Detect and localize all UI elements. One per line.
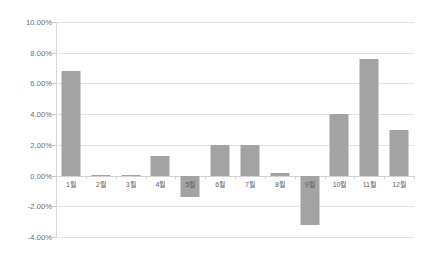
gridline	[56, 237, 414, 238]
x-axis-tick-label: 10월	[325, 179, 355, 189]
bar[interactable]	[61, 71, 80, 175]
y-axis-tick-label: -4.00%	[0, 233, 52, 242]
bar[interactable]	[270, 173, 289, 175]
y-axis-tick-label: 4.00%	[0, 110, 52, 119]
bar-slot	[354, 22, 384, 237]
bar-chart: 10.00%8.00%6.00%4.00%2.00%0.00%-2.00%-4.…	[0, 0, 430, 260]
x-axis-tick-label: 9월	[295, 179, 325, 189]
y-axis-tick-label: 6.00%	[0, 79, 52, 88]
bar[interactable]	[390, 130, 409, 176]
x-axis-tick-label: 3월	[116, 179, 146, 189]
bar[interactable]	[211, 145, 230, 176]
x-axis-tick-label: 12월	[384, 179, 414, 189]
x-axis-tick-label: 8월	[265, 179, 295, 189]
bar-slot	[325, 22, 355, 237]
bar-slot	[235, 22, 265, 237]
bar[interactable]	[330, 114, 349, 175]
bar-slot	[205, 22, 235, 237]
x-axis-tick-mark	[414, 176, 415, 179]
x-axis-tick-label: 6월	[205, 179, 235, 189]
bar[interactable]	[151, 156, 170, 176]
bar[interactable]	[121, 175, 140, 176]
bar-slot	[86, 22, 116, 237]
bar-slot	[116, 22, 146, 237]
bar-slot	[384, 22, 414, 237]
x-axis-tick-label: 5월	[175, 179, 205, 189]
x-axis-tick-label: 1월	[56, 179, 86, 189]
x-axis-tick-label: 11월	[354, 179, 384, 189]
plot-area	[56, 22, 414, 237]
bar[interactable]	[240, 145, 259, 176]
x-axis-tick-label: 2월	[86, 179, 116, 189]
bar-slot	[295, 22, 325, 237]
bar-slot	[146, 22, 176, 237]
y-axis-tick-label: 10.00%	[0, 18, 52, 27]
bars-layer	[56, 22, 414, 237]
bar-slot	[56, 22, 86, 237]
y-axis-tick-label: 2.00%	[0, 140, 52, 149]
bar[interactable]	[360, 59, 379, 176]
bar-slot	[265, 22, 295, 237]
y-axis-tick-mark	[52, 237, 56, 238]
y-axis-tick-label: 0.00%	[0, 171, 52, 180]
bar[interactable]	[91, 175, 110, 176]
y-axis-tick-label: -2.00%	[0, 202, 52, 211]
x-axis-tick-label: 4월	[146, 179, 176, 189]
bar-slot	[175, 22, 205, 237]
y-axis-tick-label: 8.00%	[0, 48, 52, 57]
x-axis-tick-label: 7월	[235, 179, 265, 189]
